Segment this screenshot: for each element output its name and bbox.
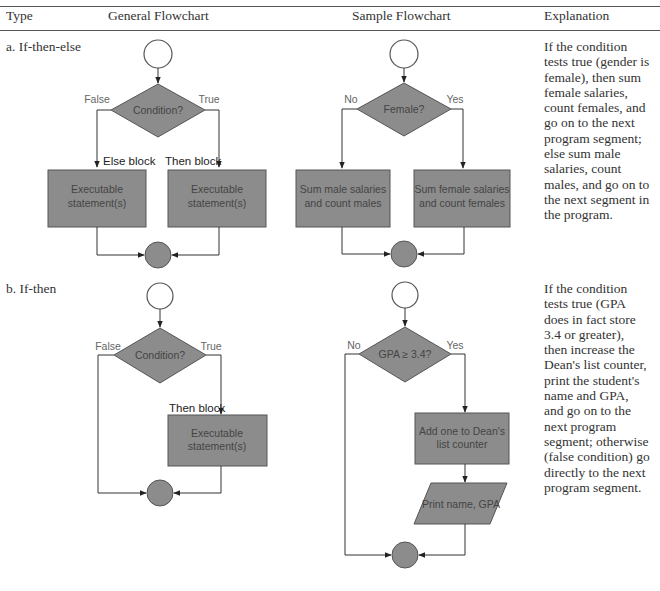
true-label: Yes <box>446 93 463 105</box>
else-box-line1: Sum male salaries <box>300 183 386 195</box>
flow-line <box>342 109 357 168</box>
true-label: Yes <box>446 339 463 351</box>
else-box-line2: statement(s) <box>68 197 126 209</box>
then-block-label: Then block <box>165 155 222 167</box>
flow-line <box>342 227 390 254</box>
io-box-text: Print name, GPA <box>422 498 500 510</box>
decision-text: Condition? <box>133 104 183 116</box>
start-connector <box>144 40 172 68</box>
sample-if-then-flowchart: GPA ≥ 3.4? No Yes Add one to Dean's list… <box>345 282 509 568</box>
else-box-line2: and count males <box>304 197 381 209</box>
then-box-line2: list counter <box>437 438 488 450</box>
false-label: No <box>344 93 358 105</box>
end-connector <box>147 480 173 506</box>
decision-text: GPA ≥ 3.4? <box>379 348 432 360</box>
end-connector <box>392 542 418 568</box>
general-if-then-flowchart: Condition? False True Then block Executa… <box>95 283 267 506</box>
else-block-label: Else block <box>103 155 156 167</box>
sample-if-then-else-flowchart: Female? No Yes Sum male salaries and cou… <box>296 40 510 267</box>
true-label: True <box>200 340 221 352</box>
end-connector <box>391 241 417 267</box>
decision-text: Female? <box>384 103 425 115</box>
true-label: True <box>198 93 219 105</box>
start-connector <box>392 282 418 308</box>
flow-line <box>98 355 146 493</box>
flow-line <box>174 466 221 493</box>
flow-line <box>419 524 465 555</box>
start-connector <box>147 283 173 309</box>
decision-text: Condition? <box>135 349 185 361</box>
else-box-line1: Executable <box>71 183 123 195</box>
end-connector <box>145 242 171 268</box>
then-box-line1: Sum female salaries <box>414 183 509 195</box>
then-block-label: Then block <box>169 402 226 414</box>
start-connector <box>390 40 418 68</box>
flow-line <box>418 227 464 254</box>
flow-line <box>345 354 391 555</box>
then-box-line1: Add one to Dean's <box>419 425 505 437</box>
false-label: False <box>84 93 110 105</box>
then-box-line2: statement(s) <box>188 197 246 209</box>
flow-line <box>97 227 144 255</box>
then-box-line1: Executable <box>191 183 243 195</box>
flow-line <box>451 109 463 168</box>
general-if-then-else-flowchart: Condition? False True Else block Then bl… <box>48 40 266 268</box>
then-box-line2: statement(s) <box>188 440 246 452</box>
false-label: No <box>347 339 361 351</box>
then-box-line2: and count females <box>419 197 505 209</box>
flowchart-canvas: Condition? False True Else block Then bl… <box>0 0 660 591</box>
flow-line <box>172 227 219 255</box>
flow-line <box>451 354 465 412</box>
false-label: False <box>95 340 121 352</box>
then-box-line1: Executable <box>191 427 243 439</box>
